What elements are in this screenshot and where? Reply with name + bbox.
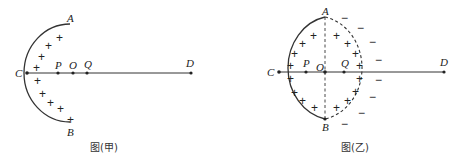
svg-text:+: + xyxy=(47,96,54,110)
svg-text:+: + xyxy=(356,59,363,73)
svg-text:−: − xyxy=(341,117,348,131)
point-p xyxy=(56,71,59,74)
svg-text:−: − xyxy=(369,35,376,49)
svg-text:+: + xyxy=(344,94,351,108)
svg-text:+: + xyxy=(310,29,317,43)
svg-text:−: − xyxy=(357,21,364,35)
point-p xyxy=(304,70,307,73)
label-q: Q xyxy=(84,58,92,70)
svg-text:+: + xyxy=(33,61,40,75)
svg-text:−: − xyxy=(341,11,348,25)
svg-text:+: + xyxy=(291,86,298,100)
svg-text:+: + xyxy=(299,94,306,108)
svg-text:−: − xyxy=(369,90,376,104)
svg-text:−: − xyxy=(358,106,365,120)
label-p: P xyxy=(54,59,62,71)
label-d: D xyxy=(439,56,448,68)
svg-text:+: + xyxy=(45,39,52,53)
label-c: C xyxy=(267,66,275,78)
point-d xyxy=(442,70,445,73)
svg-text:+: + xyxy=(57,102,64,116)
label-b: B xyxy=(322,121,329,133)
svg-text:+: + xyxy=(333,101,340,115)
svg-text:+: + xyxy=(299,37,306,51)
label-d: D xyxy=(185,57,194,69)
point-q xyxy=(85,71,88,74)
label-a: A xyxy=(321,5,329,17)
svg-text:+: + xyxy=(287,72,294,86)
svg-text:+: + xyxy=(287,59,294,73)
plus-charges: + + + + + + + + + xyxy=(33,31,74,127)
caption-jia: 图(甲) xyxy=(90,142,118,153)
label-q: Q xyxy=(341,57,349,69)
point-c xyxy=(277,70,281,74)
point-o xyxy=(71,71,74,74)
point-q xyxy=(342,70,345,73)
svg-text:+: + xyxy=(39,87,46,101)
label-b: B xyxy=(67,126,74,138)
svg-text:+: + xyxy=(356,72,363,86)
svg-text:+: + xyxy=(311,101,318,115)
label-c: C xyxy=(15,67,23,79)
caption-yi: 图(乙) xyxy=(341,142,369,153)
svg-text:−: − xyxy=(375,53,382,67)
diagram-canvas: A B C P O Q D + + + + + + + + + 图(甲) A xyxy=(0,0,461,164)
label-o: O xyxy=(69,59,77,71)
svg-text:+: + xyxy=(56,31,63,45)
label-a: A xyxy=(66,12,74,24)
svg-text:+: + xyxy=(352,85,359,99)
label-o: O xyxy=(316,61,324,73)
label-p: P xyxy=(302,57,310,69)
svg-text:+: + xyxy=(333,29,340,43)
svg-text:−: − xyxy=(375,73,382,87)
svg-text:+: + xyxy=(34,74,41,88)
svg-text:+: + xyxy=(344,37,351,51)
figure-yi: A B C P O Q D + + + + + + + + + + + + + … xyxy=(267,5,448,153)
point-c xyxy=(25,71,29,75)
figure-jia: A B C P O Q D + + + + + + + + + 图(甲) xyxy=(15,12,194,153)
point-d xyxy=(189,71,192,74)
svg-text:+: + xyxy=(67,113,74,127)
